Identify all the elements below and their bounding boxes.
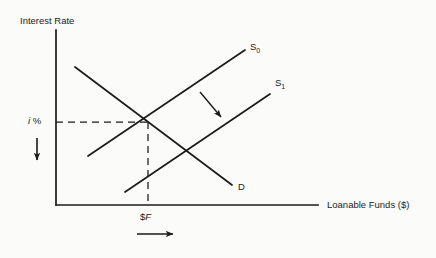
diagram-canvas <box>0 0 436 258</box>
funds-symbol: F <box>145 211 151 222</box>
y-axis-label: Interest Rate <box>20 16 74 26</box>
supply-curve-shifted <box>125 94 270 192</box>
supply-curve-original <box>88 50 245 156</box>
supply-original-subscript: 0 <box>256 47 260 54</box>
supply-shift-arrow <box>200 92 221 117</box>
demand-curve <box>75 67 232 185</box>
x-axis-label: Loanable Funds ($) <box>327 200 409 210</box>
demand-curve-label: D <box>238 182 245 192</box>
supply-shifted-subscript: 1 <box>281 83 285 90</box>
supply-curve-shifted-label: S1 <box>275 78 285 90</box>
equilibrium-interest-rate-label: i % <box>28 116 41 126</box>
equilibrium-funds-label: $F <box>140 212 151 222</box>
interest-rate-unit: % <box>30 115 41 126</box>
supply-curve-original-label: S0 <box>250 42 260 54</box>
loanable-funds-diagram: Interest Rate Loanable Funds ($) i % $F … <box>0 0 436 258</box>
